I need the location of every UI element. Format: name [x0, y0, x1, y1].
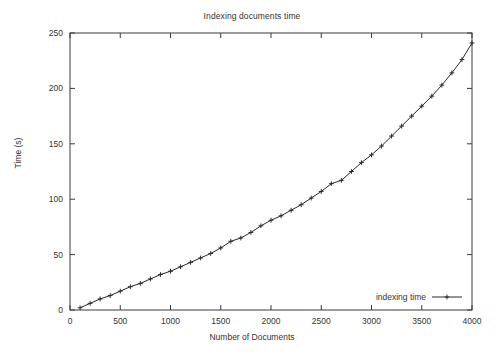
y-tick-label: 250 — [49, 28, 63, 38]
chart-legend: indexing time — [376, 292, 462, 302]
data-point-marker — [128, 284, 133, 289]
x-tick-label: 2000 — [262, 316, 281, 326]
x-tick-label: 4000 — [463, 316, 482, 326]
data-point-marker — [279, 213, 284, 218]
y-tick-label: 150 — [49, 139, 63, 149]
data-point-marker — [208, 251, 213, 256]
x-tick-label: 3500 — [412, 316, 431, 326]
data-point-marker — [148, 277, 153, 282]
data-point-marker — [78, 305, 83, 310]
data-point-marker — [98, 297, 103, 302]
plot-frame — [70, 33, 472, 310]
y-tick-label: 50 — [54, 250, 64, 260]
data-point-marker — [168, 269, 173, 274]
plot-border — [70, 33, 472, 310]
x-axis-ticks: 05001000150020002500300035004000 — [68, 33, 482, 326]
data-point-marker — [138, 281, 143, 286]
x-tick-label: 0 — [68, 316, 73, 326]
y-axis-ticks: 050100150200250 — [49, 28, 472, 315]
series-polyline — [80, 43, 472, 308]
data-point-marker — [289, 208, 294, 213]
y-tick-label: 100 — [49, 194, 63, 204]
x-tick-label: 2500 — [312, 316, 331, 326]
data-point-marker — [238, 236, 243, 241]
x-tick-label: 3000 — [362, 316, 381, 326]
chart-figure: Indexing documents time Time (s) Number … — [0, 0, 504, 357]
x-tick-label: 1000 — [161, 316, 180, 326]
data-point-marker — [108, 293, 113, 298]
x-tick-label: 1500 — [211, 316, 230, 326]
data-point-marker — [158, 272, 163, 277]
data-point-marker — [269, 218, 274, 223]
data-point-marker — [88, 301, 93, 306]
x-tick-label: 500 — [113, 316, 127, 326]
data-point-marker — [188, 260, 193, 265]
y-tick-label: 200 — [49, 83, 63, 93]
legend-label: indexing time — [376, 292, 426, 302]
data-point-marker — [178, 264, 183, 269]
data-series-indexing-time — [78, 41, 475, 311]
plot-canvas: 05001000150020002500300035004000 0501001… — [0, 0, 504, 357]
y-tick-label: 0 — [58, 305, 63, 315]
data-point-marker — [118, 289, 123, 294]
data-point-marker — [470, 41, 475, 46]
data-point-marker — [198, 256, 203, 261]
